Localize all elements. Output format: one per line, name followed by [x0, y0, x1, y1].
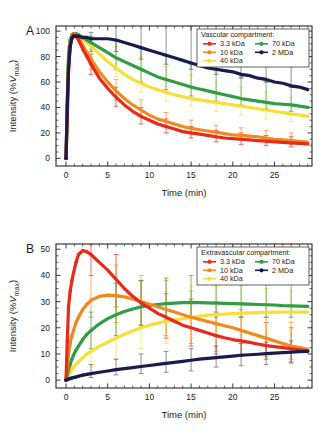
series-point: [85, 303, 88, 306]
legend-label-2-MDa: 2 MDa: [272, 266, 293, 275]
legend-marker-dot: [207, 42, 211, 46]
series-point: [89, 299, 92, 302]
legend-title: Extravascular compartment:: [201, 248, 290, 257]
legend-a: Vascular compartment:3.3 kDa10 kDa40 kDa…: [197, 29, 309, 67]
series-point: [77, 344, 80, 347]
series-point: [72, 271, 75, 274]
series-point: [72, 329, 75, 332]
panel-b: 051015202501020304050Time (min)Intensity…: [0, 218, 325, 440]
x-tick-label: 25: [270, 392, 280, 402]
series-point: [81, 356, 84, 359]
y-tick-label: 80: [41, 52, 51, 62]
x-tick-label: 20: [228, 170, 238, 180]
x-axis-title: Time (min): [161, 409, 206, 420]
y-tick-label: 30: [41, 297, 51, 307]
y-tick-label: 40: [41, 270, 51, 280]
series-point: [81, 373, 84, 376]
legend-marker-dot: [259, 268, 263, 272]
legend-label-40-kDa: 40 kDa: [220, 274, 243, 283]
legend-label-40-kDa: 40 kDa: [220, 56, 243, 65]
x-tick-label: 20: [228, 392, 238, 402]
y-tick-label: 20: [41, 128, 51, 138]
chart-a: 0510152025020406080100Time (min)Intensit…: [0, 0, 325, 218]
series-point: [85, 55, 88, 58]
series-point: [89, 253, 92, 256]
series-point: [81, 47, 84, 50]
series-point: [77, 253, 80, 256]
series-point: [77, 34, 80, 37]
series-point: [85, 352, 88, 355]
series-point: [77, 316, 80, 319]
panel-letter-b: B: [26, 242, 34, 256]
series-point: [81, 249, 84, 252]
series-point: [70, 334, 73, 337]
series-point: [85, 36, 88, 39]
legend-marker-dot: [207, 268, 211, 272]
y-axis-title: Intensity (%Vmax): [7, 280, 20, 352]
legend-marker-dot: [207, 260, 211, 264]
series-point: [66, 339, 69, 342]
series-point: [74, 321, 77, 324]
series-point: [66, 103, 69, 106]
y-tick-label: 100: [36, 26, 50, 36]
series-point: [64, 157, 67, 160]
legend-marker-dot: [207, 59, 211, 63]
series-point: [72, 365, 75, 368]
x-tick-label: 5: [105, 392, 110, 402]
x-tick-label: 15: [186, 170, 196, 180]
x-axis-title: Time (min): [161, 187, 206, 198]
series-point: [85, 250, 88, 253]
y-axis-title-text: Intensity (%Vmax): [7, 60, 20, 132]
x-tick-label: 10: [145, 170, 155, 180]
series-point: [70, 279, 73, 282]
series-point: [77, 375, 80, 378]
y-tick-label: 40: [41, 102, 51, 112]
series-point: [89, 41, 92, 44]
y-axis-title: Intensity (%Vmax): [7, 60, 20, 132]
series-point: [81, 308, 84, 311]
series-point: [89, 329, 92, 332]
legend-marker-dot: [259, 42, 263, 46]
series-point: [67, 305, 70, 308]
x-tick-label: 25: [270, 170, 280, 180]
series-point: [74, 363, 77, 366]
series-point: [74, 261, 77, 264]
legend-marker-dot: [259, 50, 263, 54]
series-point: [68, 342, 71, 345]
series-point: [81, 338, 84, 341]
y-tick-label: 0: [45, 375, 50, 385]
panel-letter-a: A: [26, 24, 34, 38]
legend-marker-dot: [259, 260, 263, 264]
series-point: [81, 36, 84, 39]
series-point: [89, 372, 92, 375]
legend-marker-dot: [207, 50, 211, 54]
panel-a: 0510152025020406080100Time (min)Intensit…: [0, 0, 325, 218]
y-tick-label: 20: [41, 323, 51, 333]
x-tick-label: 15: [186, 392, 196, 402]
x-tick-label: 0: [64, 170, 69, 180]
y-axis-title-text: Intensity (%Vmax): [7, 280, 20, 352]
series-point: [74, 348, 77, 351]
x-tick-label: 10: [145, 392, 155, 402]
y-tick-label: 10: [41, 349, 51, 359]
x-tick-label: 5: [105, 170, 110, 180]
figure-container: 0510152025020406080100Time (min)Intensit…: [0, 0, 325, 440]
chart-b: 051015202501020304050Time (min)Intensity…: [0, 218, 325, 440]
series-point: [89, 37, 92, 40]
legend-title: Vascular compartment:: [201, 30, 274, 39]
series-point: [89, 45, 92, 48]
legend-b: Extravascular compartment:3.3 kDa10 kDa4…: [197, 247, 309, 285]
series-point: [89, 350, 92, 353]
y-tick-label: 50: [41, 244, 51, 254]
series-point: [85, 333, 88, 336]
legend-label-2-MDa: 2 MDa: [272, 48, 293, 57]
x-tick-label: 0: [64, 392, 69, 402]
y-tick-label: 60: [41, 77, 51, 87]
series-point: [85, 373, 88, 376]
series-point: [72, 354, 75, 357]
legend-marker-dot: [207, 277, 211, 281]
y-tick-label: 0: [45, 153, 50, 163]
series-point: [89, 62, 92, 65]
series-point: [77, 38, 80, 41]
series-point: [68, 289, 71, 292]
